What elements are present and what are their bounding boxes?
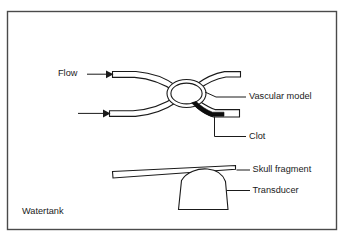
watertank-border [8,12,337,230]
vascular-model-group [110,72,241,118]
flow-arrows-group [78,70,114,117]
vessel-inlet-lower [110,96,177,116]
figure-root: Flow Vascular model Clot Skull fragment … [0,0,344,239]
leader-vascular-model [205,92,246,97]
watertank-diagram: Flow Vascular model Clot Skull fragment … [0,0,344,239]
vessel-inlet-upper [113,72,177,93]
label-flow: Flow [58,68,78,78]
label-transducer: Transducer [253,185,299,195]
leader-clot [215,117,247,137]
label-clot: Clot [249,131,266,141]
label-watertank: Watertank [22,206,64,216]
label-vascular-model: Vascular model [249,91,312,101]
transducer-shape [179,169,229,210]
label-skull-fragment: Skull fragment [253,164,312,174]
aneurysm-lumen [171,83,202,104]
